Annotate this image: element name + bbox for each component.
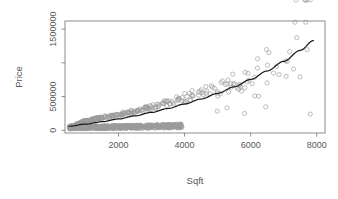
- data-point: [294, 0, 298, 2]
- y-axis-tick-labels-group: 05000001500000: [48, 12, 58, 133]
- y-axis-tick-label: 1500000: [48, 12, 58, 47]
- chart-container: 05000001500000 2000400060008000 Price Sq…: [0, 0, 338, 199]
- scatter-plot-svg: 05000001500000 2000400060008000 Price Sq…: [0, 0, 338, 199]
- x-axis-tick-label: 8000: [307, 140, 327, 150]
- y-axis-tick-label: 500000: [48, 82, 58, 112]
- x-axis-tick-label: 2000: [109, 140, 129, 150]
- x-axis-title: Sqft: [187, 175, 204, 186]
- x-axis-tick-label: 6000: [241, 140, 261, 150]
- y-axis-tick-label: 0: [48, 128, 58, 133]
- x-axis-ticks-group: [119, 133, 317, 137]
- x-axis-tick-label: 4000: [175, 140, 195, 150]
- x-axis-tick-labels-group: 2000400060008000: [109, 140, 327, 150]
- y-axis-title: Price: [13, 66, 24, 88]
- y-axis-ticks-group: [62, 29, 66, 130]
- data-point: [308, 0, 312, 2]
